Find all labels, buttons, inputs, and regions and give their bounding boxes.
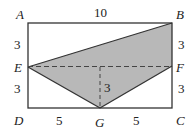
label-point-B: B [176,7,184,22]
label-point-E: E [13,60,22,75]
label-point-F: F [175,60,185,75]
geometry-figure: A B C D E F G 10 3 3 3 3 5 5 3 [0,0,193,134]
length-BF: 3 [178,37,185,52]
length-DG: 5 [56,113,63,128]
label-point-D: D [13,113,24,128]
length-GC: 5 [133,113,140,128]
height-label: 3 [104,80,111,95]
length-ED: 3 [14,81,21,96]
length-FC: 3 [178,81,185,96]
label-point-G: G [95,115,105,130]
length-AB: 10 [94,5,107,20]
length-AE: 3 [14,37,21,52]
label-point-C: C [176,113,185,128]
label-point-A: A [15,7,24,22]
